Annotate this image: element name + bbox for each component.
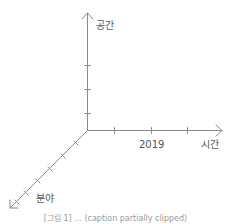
figure-caption: [그림 1] ... (caption partially clipped) bbox=[0, 215, 231, 223]
horizontal-tick-label: 2019 bbox=[139, 140, 164, 150]
three-axis-diagram: 공간 2019 시간 분야 [그림 1] ... (caption partia… bbox=[0, 0, 231, 224]
vertical-axis-label: 공간 bbox=[96, 21, 114, 31]
diagonal-axis-label: 분야 bbox=[36, 194, 54, 204]
axes-svg bbox=[0, 0, 231, 224]
horizontal-axis-label: 시간 bbox=[201, 140, 219, 150]
